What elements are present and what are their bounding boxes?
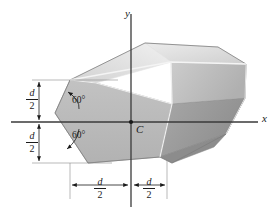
figure-container: y x C 60° 60° d 2 d 2 d 2 d 2 — [0, 0, 277, 219]
face-upper-right — [171, 62, 246, 104]
origin-point — [129, 120, 133, 124]
hexagonal-prism-figure — [0, 0, 277, 219]
hexagonal-prism-solid — [55, 39, 246, 163]
